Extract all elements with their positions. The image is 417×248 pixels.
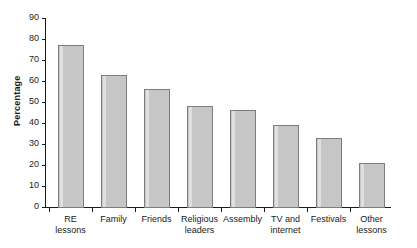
bar-highlight (60, 46, 63, 207)
x-category-label: Other lessons (350, 214, 393, 236)
bar (58, 45, 84, 208)
bar (316, 138, 342, 208)
y-tick-label: 20 (17, 159, 39, 169)
bar-highlight (103, 76, 106, 207)
bar (187, 106, 213, 208)
bar-highlight (275, 126, 278, 207)
x-category-label: Family (92, 214, 135, 225)
bar (101, 75, 127, 208)
bar-highlight (146, 90, 149, 207)
bar-chart: Percentage 0102030405060708090 RE lesson… (0, 0, 417, 248)
bar-highlight (232, 111, 235, 207)
bar-highlight (361, 164, 364, 207)
x-category-label: Festivals (307, 214, 350, 225)
y-tick-label: 10 (17, 180, 39, 190)
bar (273, 125, 299, 208)
y-tick-label: 0 (17, 201, 39, 211)
y-tick-label: 60 (17, 75, 39, 85)
x-category-label: Assembly (221, 214, 264, 225)
bar (359, 163, 385, 208)
bar-highlight (189, 107, 192, 207)
x-category-label: TV and internet (264, 214, 307, 236)
y-tick-label: 50 (17, 96, 39, 106)
y-tick-label: 70 (17, 54, 39, 64)
x-category-label: Religious leaders (178, 214, 221, 236)
bar (144, 89, 170, 208)
y-tick-label: 90 (17, 12, 39, 22)
x-category-label: Friends (135, 214, 178, 225)
x-category-label: RE lessons (49, 214, 92, 236)
y-tick-label: 30 (17, 138, 39, 148)
bar (230, 110, 256, 208)
bar-highlight (318, 139, 321, 207)
y-tick-label: 40 (17, 117, 39, 127)
y-tick-label: 80 (17, 33, 39, 43)
